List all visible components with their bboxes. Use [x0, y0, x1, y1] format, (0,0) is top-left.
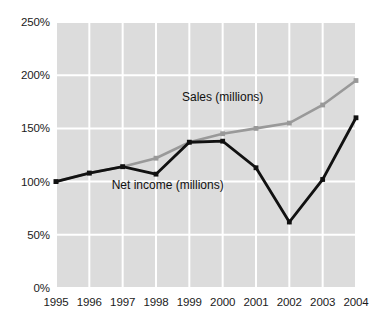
data-point-marker	[254, 165, 259, 170]
x-axis-tick-label: 1998	[143, 296, 168, 308]
data-point-marker	[187, 140, 192, 145]
x-axis-tick-label: 1999	[177, 296, 202, 308]
data-point-marker	[154, 156, 159, 161]
y-axis-tick-labels: 0%50%100%150%200%250%	[21, 16, 50, 294]
data-point-marker	[87, 171, 92, 176]
x-axis-tick-label: 1995	[43, 296, 68, 308]
x-axis-tick-labels: 1995199619971998199920002001200220032004	[43, 296, 369, 308]
data-point-marker	[54, 179, 59, 184]
data-point-marker	[220, 131, 225, 136]
data-point-marker	[254, 126, 259, 131]
data-point-marker	[354, 115, 359, 120]
x-axis-tick-label: 1996	[77, 296, 102, 308]
x-axis-tick-label: 2003	[310, 296, 335, 308]
x-axis-tick-label: 2000	[210, 296, 235, 308]
x-axis-tick-label: 2002	[277, 296, 302, 308]
x-axis-tick-label: 2001	[243, 296, 268, 308]
series-inline-label: Sales (millions)	[182, 90, 263, 104]
data-point-marker	[154, 172, 159, 177]
x-axis-tick-label: 1997	[110, 296, 135, 308]
chart-canvas: 0%50%100%150%200%250% 199519961997199819…	[0, 0, 379, 329]
data-point-marker	[220, 139, 225, 144]
line-chart: 0%50%100%150%200%250% 199519961997199819…	[0, 0, 379, 329]
data-point-marker	[287, 121, 292, 126]
data-point-marker	[354, 78, 359, 83]
data-point-marker	[320, 177, 325, 182]
y-axis-tick-label: 150%	[21, 122, 50, 134]
y-axis-tick-label: 100%	[21, 176, 50, 188]
x-axis-tick-label: 2004	[343, 296, 369, 308]
y-axis-tick-label: 0%	[34, 282, 50, 294]
data-point-marker	[320, 103, 325, 108]
data-point-marker	[287, 220, 292, 225]
y-axis-tick-label: 50%	[27, 229, 50, 241]
plot-area-background	[56, 22, 356, 288]
data-point-marker	[120, 164, 125, 169]
y-axis-tick-label: 200%	[21, 69, 50, 81]
y-axis-tick-label: 250%	[21, 16, 50, 28]
series-inline-label: Net income (millions)	[112, 178, 224, 192]
